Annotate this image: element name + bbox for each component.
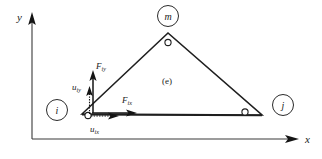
- figure-canvas: y x (e) m i: [0, 0, 322, 159]
- node-marker-m: [165, 39, 171, 45]
- node-tag-j: j: [273, 95, 294, 116]
- triangular-element: [82, 33, 262, 115]
- y-axis-label: y: [16, 11, 22, 23]
- node-tag-i: i: [47, 100, 68, 121]
- element-outline: [82, 33, 262, 115]
- disp-x-label: uix: [90, 124, 99, 135]
- node-marker-i: [85, 112, 91, 118]
- force-x-label: Fix: [121, 95, 132, 106]
- node-tag-i-label: i: [56, 105, 59, 116]
- diagram-svg: y x (e) m i: [0, 0, 322, 159]
- element-bottom-edge: [82, 115, 262, 116]
- node-marker-j: [242, 109, 248, 115]
- node-tag-m: m: [158, 6, 179, 27]
- x-axis-label: x: [304, 133, 310, 145]
- force-y-label: Fiy: [95, 61, 106, 72]
- node-tag-m-label: m: [164, 11, 171, 22]
- disp-y-label: uiy: [72, 82, 81, 93]
- element-label: (e): [162, 76, 172, 86]
